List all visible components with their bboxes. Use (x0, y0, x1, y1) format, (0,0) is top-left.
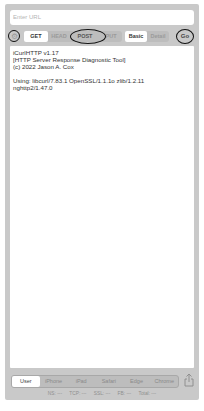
mode-basic[interactable]: Basic (125, 31, 147, 42)
settings-button[interactable]: ⚙ (8, 30, 20, 42)
output-line: nghttp2/1.47.0 (13, 84, 191, 91)
timing-row: NS: --- TCP: --- SSL: --- FB: --- Total:… (0, 391, 204, 396)
timing-fb: FB: --- (118, 391, 132, 396)
method-head[interactable]: HEAD (48, 31, 70, 42)
timing-ssl: SSL: --- (94, 391, 111, 396)
method-get[interactable]: GET (24, 31, 48, 42)
annotation-ring-post (70, 29, 106, 44)
output-line: Using: libcurl/7.83.1 OpenSSL/1.1.1o zli… (13, 77, 191, 84)
output-line: (c) 2022 Jason A. Cox (13, 63, 191, 70)
gear-icon: ⚙ (11, 32, 18, 41)
mode-segmented-control: Basic Detail (125, 31, 169, 42)
agent-iphone[interactable]: iPhone (40, 376, 68, 387)
share-icon[interactable] (184, 373, 194, 387)
timing-total: Total: --- (139, 391, 157, 396)
output-line: iCurlHTTP v1.17 (13, 49, 191, 56)
agent-chrome[interactable]: Chrome (150, 376, 178, 387)
user-agent-segmented-control: User iPhone iPad Safari Edge Chrome (11, 375, 179, 388)
agent-ipad[interactable]: iPad (67, 376, 95, 387)
output-area[interactable]: iCurlHTTP v1.17 [HTTP Server Response Di… (10, 46, 194, 368)
url-input[interactable]: Enter URL (10, 10, 194, 25)
agent-user[interactable]: User (12, 376, 40, 387)
go-button[interactable]: Go (176, 29, 194, 44)
mode-detail[interactable]: Detail (147, 31, 169, 42)
agent-safari[interactable]: Safari (95, 376, 123, 387)
output-line: [HTTP Server Response Diagnostic Tool] (13, 56, 191, 63)
timing-ns: NS: --- (48, 391, 62, 396)
agent-edge[interactable]: Edge (123, 376, 151, 387)
timing-tcp: TCP: --- (69, 391, 86, 396)
